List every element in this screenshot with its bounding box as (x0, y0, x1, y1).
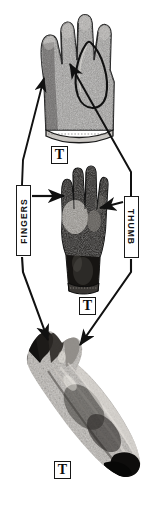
specimen-dissected-arm (18, 323, 144, 485)
specimen-textured-glove (34, 8, 122, 144)
label-t-gloved-hand-text: T (83, 299, 92, 313)
label-t-dissected-arm-text: T (58, 463, 67, 477)
label-t-dissected-arm: T (54, 461, 71, 479)
label-thumb: THUMB (124, 196, 139, 258)
specimen-gloved-hand (53, 163, 109, 295)
figure-plate: FINGERS THUMB T T T (0, 0, 154, 510)
label-t-glove-text: T (55, 148, 64, 162)
label-thumb-text: THUMB (127, 209, 137, 245)
label-fingers-text: FINGERS (19, 198, 29, 243)
label-fingers: FINGERS (16, 185, 31, 256)
label-t-glove: T (51, 146, 68, 164)
label-t-gloved-hand: T (79, 297, 96, 315)
